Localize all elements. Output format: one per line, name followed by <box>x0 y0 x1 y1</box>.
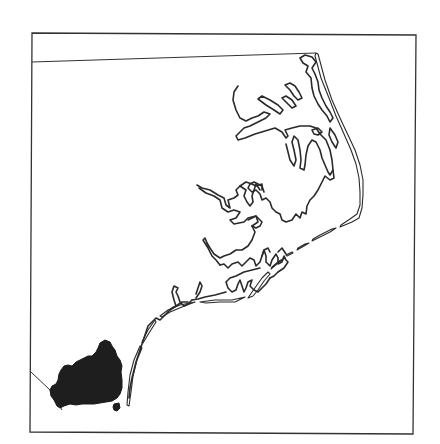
coastline-cape-fear <box>140 312 168 350</box>
barrier-island-north <box>315 53 363 227</box>
coastline-pasquotank <box>258 96 283 114</box>
coastline-neuse-north <box>203 226 255 265</box>
barrier-island-bogue <box>200 297 245 303</box>
state-border-north <box>32 53 316 62</box>
barrier-island-ocracoke <box>297 243 309 250</box>
coastline-white-oak <box>196 282 202 298</box>
coastline-pamlico-river <box>197 184 260 208</box>
coastline-alligator <box>329 128 338 148</box>
barrier-island-hatteras <box>312 228 336 241</box>
map-canvas <box>0 0 440 444</box>
coastline-croatan <box>312 128 322 135</box>
coastline-pamlico-shore <box>248 170 334 222</box>
mainland-coastline <box>129 55 338 398</box>
outer-banks <box>127 53 363 406</box>
coastline-perquimans <box>282 96 296 108</box>
barrier-island-portsmouth <box>286 252 293 256</box>
highlighted-county-island <box>113 403 120 411</box>
highlighted-county <box>50 340 122 408</box>
barrier-island-core-banks-south <box>248 272 270 298</box>
